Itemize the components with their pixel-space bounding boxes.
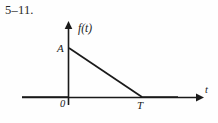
x-axis-label: t <box>205 84 208 95</box>
ramp-segment <box>69 48 142 97</box>
amplitude-label: A <box>57 42 64 54</box>
plot-graphic <box>0 0 218 123</box>
figure-container: 5–11. f(t) A 0 T t <box>0 0 218 123</box>
y-axis-arrowhead <box>65 21 73 29</box>
y-axis-label: f(t) <box>78 22 92 34</box>
x-axis-arrowhead <box>196 94 204 102</box>
period-label: T <box>137 99 143 111</box>
origin-label: 0 <box>60 98 65 109</box>
